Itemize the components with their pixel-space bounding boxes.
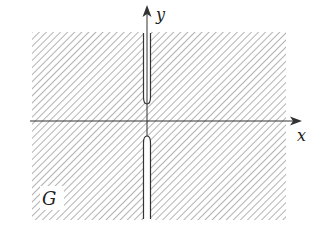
lower-slit	[144, 136, 151, 220]
x-axis-label: x	[297, 126, 306, 145]
region-diagram: y x G	[0, 0, 330, 236]
hatched-region-g	[32, 32, 286, 220]
region-label: G	[42, 188, 56, 209]
y-axis-label: y	[155, 5, 166, 24]
